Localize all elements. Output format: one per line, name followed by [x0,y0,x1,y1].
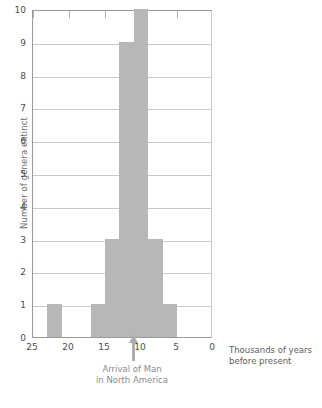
y-tick-label-5: 5 [0,170,26,179]
x-tick-label-15: 15 [92,343,116,352]
histogram-bars [33,11,211,337]
y-tick-label-3: 3 [0,236,26,245]
y-tick-label-2: 2 [0,268,26,277]
x-tick-label-25: 25 [20,343,44,352]
x-tick-label-20: 20 [56,343,80,352]
x-tick-label-5: 5 [164,343,188,352]
histogram-bar [105,239,119,337]
y-tick-label-10: 10 [0,6,26,15]
histogram-bar [47,304,61,337]
histogram-bar [163,304,177,337]
arrival-of-man-label: Arrival of Man in North America [76,364,188,385]
y-tick-label-7: 7 [0,104,26,113]
histogram-bar [148,239,162,337]
histogram-figure: Number of genera extinct 10 9 8 7 6 5 4 … [0,0,322,408]
up-arrow-icon [129,335,138,361]
y-tick-label-0: 0 [0,334,26,343]
x-tick-label-0: 0 [200,343,224,352]
x-axis-caption-line2: before present [229,356,321,367]
histogram-bar [91,304,105,337]
arrival-of-man-line2: in North America [76,375,188,386]
y-tick-label-9: 9 [0,39,26,48]
y-tick-label-8: 8 [0,72,26,81]
x-axis-caption: Thousands of years before present [229,345,321,367]
plot-area [32,10,212,338]
y-tick-label-4: 4 [0,203,26,212]
histogram-bar [119,42,133,337]
y-tick-label-6: 6 [0,137,26,146]
histogram-bar [134,9,148,337]
x-axis-caption-line1: Thousands of years [229,345,321,356]
y-tick-label-1: 1 [0,301,26,310]
arrival-of-man-line1: Arrival of Man [76,364,188,375]
